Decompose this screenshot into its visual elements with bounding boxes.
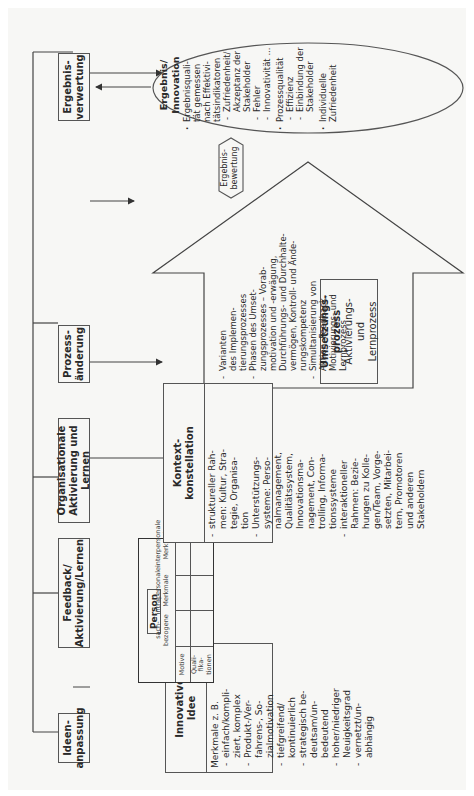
- innovative-idee-title-text: Innovative Idee: [174, 678, 198, 738]
- feedback-label: Feedback/ Aktivierung/Lernen: [62, 539, 86, 647]
- person-matrix: Person sach- bezogeneintrapersonale Merk…: [138, 538, 214, 683]
- kontext-title: Kontext- konstellation: [164, 384, 205, 542]
- list-item: strategisch be- deutsam/un- bedeutend: [298, 648, 331, 768]
- list-item: Simultanisierung von Aktion, Feedback, M…: [308, 171, 348, 381]
- ergebnis-list-item: Einbindung der Stakeholder: [295, 38, 315, 132]
- ergebnisverwertung-box: Ergebnis- verwertung: [58, 53, 90, 121]
- prozessaenderung-box: Prozess- änderung: [58, 325, 90, 383]
- person-cell: [190, 610, 214, 646]
- person-column-header: intrapersonale Merkmale: [155, 567, 175, 614]
- ergebnis-list-item: Prozessqualität: [275, 38, 285, 132]
- person-column-header: sach- bezogene: [155, 614, 175, 646]
- person-cell: [175, 610, 190, 646]
- ideenanpassung-label: Ideen- anpassung: [62, 707, 86, 768]
- list-item: Produkt-/Ver- fahrens-, So- zialmotivati…: [243, 648, 276, 768]
- list-item: hoher/niedriger Neuigkeitsgrad: [331, 648, 353, 768]
- person-cell: [190, 575, 214, 611]
- list-item: Varianten des Implemen- tierungsprozesse…: [218, 171, 248, 381]
- ergebnisbewertung-hexagon: Ergebnis- bewertung: [218, 137, 244, 199]
- ergebnis-list-item: Ergebnisquali- tät gemessen nach Effekti…: [182, 38, 222, 132]
- ergebnis-list: Ergebnisquali- tät gemessen nach Effekti…: [182, 38, 338, 132]
- person-table: MotiveQuali- fika- tionen: [175, 539, 213, 682]
- rotated-diagram-canvas: Ideen- anpassung Feedback/ Aktivierung/L…: [8, 8, 474, 796]
- kontext-box: Kontext- konstellation struktureller Rah…: [163, 383, 273, 543]
- list-item: struktureller Rah- men: Kultur, Stra- te…: [207, 387, 251, 539]
- list-item: einfach/kompli- ziert, komplex: [221, 648, 243, 768]
- prozessaenderung-label: Prozess- änderung: [62, 327, 86, 381]
- innovative-idee-list: einfach/kompli- ziert, komplexProdukt-/V…: [221, 648, 375, 768]
- feedback-box: Feedback/ Aktivierung/Lernen: [58, 538, 90, 648]
- ergebnisbewertung-label: Ergebnis- bewertung: [220, 137, 240, 199]
- umsetzung-list: Varianten des Implemen- tierungsprozesse…: [218, 171, 348, 381]
- kontext-list: struktureller Rah- men: Kultur, Stra- te…: [207, 387, 427, 539]
- ideenanpassung-box: Ideen- anpassung: [58, 713, 90, 763]
- ergebnis-list-item: Effizienz: [285, 38, 295, 132]
- ergebnis-list-item: Fehler: [252, 38, 262, 132]
- list-item: Phasen des Umset- zungsprozesses – Vorab…: [248, 171, 308, 381]
- ergebnis-list-item: Zufriedenheit/ Akzeptanz der Stakeholder: [222, 38, 252, 132]
- person-column-headers: sach- bezogeneintrapersonale Merkmaleint…: [155, 539, 175, 646]
- umsetzung-subtitle: Aktivierungs- und Lernprozess: [343, 298, 379, 364]
- ergebnis-list-item: Innovativität ...: [262, 38, 272, 132]
- innovative-idee-content: Merkmale z. B. einfach/kompli- ziert, ko…: [210, 648, 375, 768]
- ergebnisverwertung-label: Ergebnis- verwertung: [62, 54, 86, 119]
- person-row-label: Quali- fika- tionen: [190, 646, 214, 682]
- diagram-page: Ideen- anpassung Feedback/ Aktivierung/L…: [8, 8, 466, 790]
- list-item: tiefgreifend/ kontinuierlich: [276, 648, 298, 768]
- ergebnis-list-item: Individuelle Zufriedenheit: [318, 38, 338, 132]
- organisationale-label: Organisationale Aktivierung und Lernen: [56, 419, 92, 522]
- person-cell: [175, 539, 190, 575]
- ergebnis-title: Ergebnis/ Innovation: [158, 38, 182, 132]
- list-item: Unterstützungs- systeme: Perso- nalmanag…: [251, 387, 339, 539]
- kontext-title-text: Kontext- konstellation: [172, 426, 196, 500]
- list-item: interaktioneller Rahmen: Bezie- hungen z…: [339, 387, 427, 539]
- person-cell: [175, 575, 190, 611]
- organisationale-box: Organisationale Aktivierung und Lernen: [58, 418, 90, 523]
- person-grid: sach- bezogeneintrapersonale Merkmaleint…: [175, 539, 213, 682]
- person-cell: [190, 539, 214, 575]
- ergebnis-ellipse-content: Ergebnis/ Innovation Ergebnisquali- tät …: [158, 38, 458, 132]
- person-row-label: Motive: [175, 646, 190, 682]
- list-item: vernetzt/un- abhängig: [353, 648, 375, 768]
